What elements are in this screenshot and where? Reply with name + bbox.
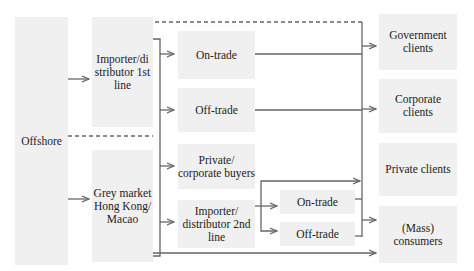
connector-lines xyxy=(0,0,474,271)
